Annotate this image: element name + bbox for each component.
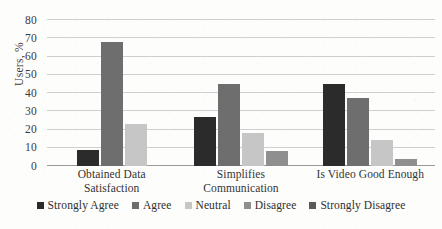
legend-item[interactable]: Agree: [132, 199, 172, 211]
legend-label: Strongly Agree: [48, 199, 119, 211]
y-tick-label-70: 70: [25, 33, 37, 45]
bar: [77, 150, 99, 166]
legend-swatch-icon: [37, 202, 44, 209]
legend-item[interactable]: Strongly Disagree: [309, 199, 405, 211]
bar: [266, 151, 288, 166]
grouped-bar-chart: Users, % 01020304050607080 Obtained Data…: [0, 0, 442, 229]
legend-label: Neutral: [196, 199, 231, 211]
bar: [194, 117, 216, 166]
legend-swatch-icon: [185, 202, 192, 209]
legend-item[interactable]: Neutral: [185, 199, 231, 211]
bar: [218, 84, 240, 166]
bar: [395, 159, 417, 166]
category-label: Obtained DataSatisfaction: [47, 168, 176, 195]
bar: [371, 140, 393, 166]
legend-label: Strongly Disagree: [320, 199, 405, 211]
category-label: Is Video Good Enough: [306, 168, 435, 182]
category-label: SimplifiesCommunication: [176, 168, 305, 195]
bar-group: [306, 20, 435, 166]
bar: [347, 98, 369, 166]
bar: [242, 133, 264, 166]
bar-groups-layer: [47, 20, 435, 166]
y-tick-label-20: 20: [25, 124, 37, 136]
category-label-line: Satisfaction: [47, 182, 176, 196]
y-tick-label-80: 80: [25, 14, 37, 26]
category-label-line: Obtained Data: [47, 168, 176, 182]
y-tick-label-10: 10: [25, 142, 37, 154]
legend-label: Agree: [143, 199, 172, 211]
category-label-line: Is Video Good Enough: [306, 168, 435, 182]
bar-group: [176, 20, 305, 166]
bar: [323, 84, 345, 166]
y-tick-label-30: 30: [25, 106, 37, 118]
y-tick-label-0: 0: [31, 160, 37, 172]
y-axis-tick-labels: 01020304050607080: [0, 20, 44, 166]
bar: [101, 42, 123, 166]
legend-item[interactable]: Strongly Agree: [37, 199, 119, 211]
y-tick-label-40: 40: [25, 87, 37, 99]
legend-label: Disagree: [255, 199, 297, 211]
legend-swatch-icon: [244, 202, 251, 209]
y-tick-label-50: 50: [25, 69, 37, 81]
legend-swatch-icon: [309, 202, 316, 209]
legend-item[interactable]: Disagree: [244, 199, 297, 211]
bar: [125, 124, 147, 166]
bar-group: [47, 20, 176, 166]
y-tick-label-60: 60: [25, 51, 37, 63]
category-label-line: Communication: [176, 182, 305, 196]
category-label-line: Simplifies: [176, 168, 305, 182]
chart-legend: Strongly AgreeAgreeNeutralDisagreeStrong…: [0, 199, 442, 211]
x-axis-category-labels: Obtained DataSatisfactionSimplifiesCommu…: [47, 168, 435, 198]
legend-swatch-icon: [132, 202, 139, 209]
